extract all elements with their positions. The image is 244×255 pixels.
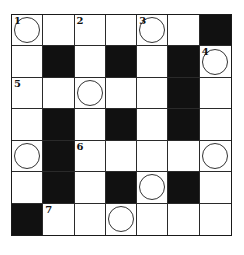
crossword-cell[interactable] (200, 204, 231, 235)
crossword-cell[interactable] (106, 78, 137, 109)
crossword-cell[interactable] (200, 172, 231, 203)
black-square (106, 46, 137, 77)
crossword-cell[interactable] (137, 141, 168, 172)
crossword-cell[interactable]: 3 (137, 15, 168, 46)
clue-number: 5 (14, 78, 21, 89)
crossword-cell[interactable] (137, 46, 168, 77)
black-square (43, 172, 74, 203)
black-square (168, 172, 199, 203)
crossword-cell[interactable] (137, 204, 168, 235)
black-square (106, 109, 137, 140)
clue-number: 4 (202, 46, 209, 57)
crossword-cell[interactable]: 5 (12, 78, 43, 109)
black-square (43, 46, 74, 77)
crossword-cell[interactable] (12, 172, 43, 203)
crossword-cell[interactable]: 4 (200, 46, 231, 77)
crossword-cell[interactable] (75, 46, 106, 77)
crossword-cell[interactable] (200, 109, 231, 140)
black-square (168, 109, 199, 140)
black-square (168, 46, 199, 77)
crossword-cell[interactable] (43, 15, 74, 46)
circle-icon (14, 143, 40, 169)
black-square (43, 109, 74, 140)
circle-icon (202, 143, 228, 169)
crossword-cell[interactable] (137, 172, 168, 203)
crossword-cell[interactable] (168, 15, 199, 46)
black-square (168, 78, 199, 109)
circle-icon (108, 206, 134, 232)
crossword-cell[interactable] (75, 78, 106, 109)
crossword-grid: 1234567 (11, 14, 232, 236)
crossword-cell[interactable] (137, 109, 168, 140)
crossword-cell[interactable] (106, 204, 137, 235)
crossword-cell[interactable]: 6 (75, 141, 106, 172)
crossword-cell[interactable]: 1 (12, 15, 43, 46)
clue-number: 7 (45, 204, 52, 215)
clue-number: 1 (14, 15, 21, 26)
circle-icon (77, 80, 103, 106)
crossword-cell[interactable] (200, 141, 231, 172)
circle-icon (139, 174, 165, 200)
crossword-cell[interactable] (106, 141, 137, 172)
crossword-cell[interactable] (106, 15, 137, 46)
crossword-cell[interactable]: 7 (43, 204, 74, 235)
crossword-cell[interactable] (12, 141, 43, 172)
clue-number: 6 (77, 141, 84, 152)
black-square (106, 172, 137, 203)
black-square (200, 15, 231, 46)
black-square (12, 204, 43, 235)
crossword-cell[interactable] (12, 46, 43, 77)
crossword-cell[interactable] (75, 109, 106, 140)
crossword-cell[interactable]: 2 (75, 15, 106, 46)
clue-number: 3 (139, 15, 146, 26)
crossword-cell[interactable] (43, 78, 74, 109)
crossword-cell[interactable] (12, 109, 43, 140)
crossword-cell[interactable] (75, 172, 106, 203)
crossword-cell[interactable] (75, 204, 106, 235)
crossword-cell[interactable] (137, 78, 168, 109)
crossword-cell[interactable] (168, 141, 199, 172)
crossword-cell[interactable] (200, 78, 231, 109)
clue-number: 2 (77, 15, 84, 26)
black-square (43, 141, 74, 172)
crossword-cell[interactable] (168, 204, 199, 235)
